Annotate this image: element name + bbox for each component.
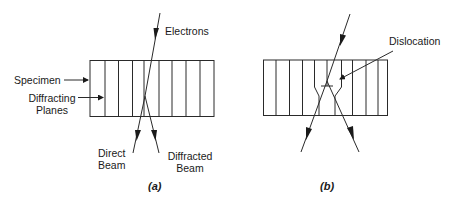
caption-a: (a) xyxy=(148,180,161,192)
incident-beam-a xyxy=(145,13,160,96)
diffracting-planes-line2: Planes xyxy=(26,104,78,116)
direct-beam-line1: Direct xyxy=(98,147,125,159)
direct-beam-line xyxy=(133,96,145,153)
electrons-label: Electrons xyxy=(165,25,209,37)
specimen-a xyxy=(90,61,214,117)
direct-beam-line2: Beam xyxy=(98,159,125,171)
diffracted-beam-line1: Diffracted xyxy=(162,150,218,162)
diffracted-beam-label: Diffracted Beam xyxy=(162,150,218,174)
diffracted-beam-line2: Beam xyxy=(162,162,218,174)
diffracted-beam-line xyxy=(145,96,159,153)
dislocation-label: Dislocation xyxy=(389,35,440,47)
specimen-label: Specimen xyxy=(14,74,61,86)
diffracting-planes-line1: Diffracting xyxy=(26,92,78,104)
specimen-b xyxy=(264,60,388,116)
caption-b: (b) xyxy=(320,180,334,192)
direct-beam-label: Direct Beam xyxy=(98,147,125,171)
diffracting-planes-label: Diffracting Planes xyxy=(26,92,78,116)
